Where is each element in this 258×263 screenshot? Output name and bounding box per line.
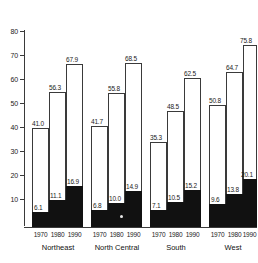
bar-filled <box>226 194 243 227</box>
bar-total-value: 48.5 <box>167 103 179 110</box>
y-tick-mark <box>20 127 25 128</box>
y-tick-mark <box>20 79 25 80</box>
bar-total-value: 56.3 <box>49 84 61 91</box>
bar-filled-value: 10.0 <box>109 195 121 202</box>
y-tick-label: 60 <box>2 76 18 83</box>
y-tick-mark <box>20 151 25 152</box>
y-tick-label: 30 <box>2 148 18 155</box>
bar-total-value: 55.8 <box>108 85 120 92</box>
bar-filled <box>167 202 184 227</box>
plot-area: 80 70 60 50 40 30 20 10 41.0 6.1 56.3 11… <box>0 0 258 263</box>
bar-filled-value: 6.8 <box>93 202 101 209</box>
bar-filled-value: 10.5 <box>168 194 180 201</box>
bar-filled-value: 20.1 <box>241 171 253 178</box>
bar-filled-value: 14.9 <box>126 183 138 190</box>
x-tick-label-year: 1990 <box>124 231 143 239</box>
bar-total-value: 68.5 <box>125 55 137 62</box>
y-tick-label: 80 <box>2 28 18 35</box>
x-tick-label-year: 1990 <box>65 231 84 239</box>
y-tick-mark <box>20 175 25 176</box>
y-tick-label: 10 <box>2 196 18 203</box>
y-tick-label: 70 <box>2 52 18 59</box>
x-group-label-northeast: Northeast <box>24 243 92 252</box>
bar-total-value: 75.8 <box>240 37 252 44</box>
bar-total-value: 67.9 <box>66 56 78 63</box>
y-tick-label: 50 <box>2 100 18 107</box>
y-tick-mark <box>20 31 25 32</box>
bar-filled <box>49 200 66 227</box>
x-tick-label-year: 1990 <box>183 231 202 239</box>
x-axis-line <box>24 227 257 228</box>
bar-filled-value: 13.8 <box>227 186 239 193</box>
bar-filled <box>243 179 257 227</box>
bar-filled-value: 15.2 <box>185 182 197 189</box>
bar-filled-value: 16.9 <box>67 178 79 185</box>
x-tick-label-year: 1990 <box>240 231 258 239</box>
y-tick-label: 20 <box>2 172 18 179</box>
bar-chart: 80 70 60 50 40 30 20 10 41.0 6.1 56.3 11… <box>0 0 258 263</box>
bar-filled-value: 7.1 <box>152 202 160 209</box>
data-point-marker <box>120 215 123 218</box>
bar-filled-value: 9.6 <box>211 196 219 203</box>
y-tick-label: 40 <box>2 124 18 131</box>
bar-filled-value: 11.1 <box>50 192 61 199</box>
y-axis-line <box>24 30 25 226</box>
bar-filled <box>184 190 201 227</box>
bar-total-value: 50.8 <box>209 97 221 104</box>
bar-total-value: 41.7 <box>91 118 103 125</box>
bar-total-value: 41.0 <box>32 120 44 127</box>
bar-total-value: 64.7 <box>226 64 238 71</box>
bar-filled <box>209 204 226 227</box>
bar-filled <box>125 191 142 227</box>
bar-total-value: 35.3 <box>150 134 162 141</box>
bar-total-value: 62.5 <box>184 70 196 77</box>
bar-filled <box>91 210 108 227</box>
x-group-label-north-central: North Central <box>83 243 151 252</box>
y-tick-mark <box>20 199 25 200</box>
bar-filled-value: 6.1 <box>34 204 42 211</box>
bar-filled <box>150 210 167 227</box>
x-group-label-west: West <box>199 243 258 252</box>
bar-filled <box>32 212 49 227</box>
y-tick-mark <box>20 55 25 56</box>
bar-filled <box>66 186 83 227</box>
y-tick-mark <box>20 103 25 104</box>
